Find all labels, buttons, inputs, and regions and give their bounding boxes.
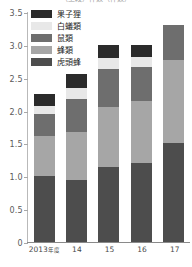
y-tick-label: 2.5 (9, 74, 23, 83)
bar-column[interactable] (98, 12, 119, 242)
bar-segment[interactable] (34, 176, 55, 242)
y-tick-mark (24, 243, 28, 244)
bar-segment[interactable] (34, 106, 55, 114)
bar-segment[interactable] (98, 69, 119, 107)
legend-swatch (31, 46, 52, 54)
bar-segment[interactable] (163, 60, 184, 143)
y-tick-label: 0.5 (9, 206, 23, 215)
legend-label: 虎頭蜂 (57, 58, 81, 67)
legend-swatch (31, 58, 52, 66)
bar-segment[interactable] (163, 143, 184, 242)
bar-segment[interactable] (163, 25, 184, 60)
bar-segment[interactable] (34, 114, 55, 136)
bar-segment[interactable] (98, 167, 119, 242)
x-tick-label: 14 (61, 245, 94, 254)
bar-segment[interactable] (66, 74, 87, 87)
y-tick-label: 0 (18, 239, 23, 248)
bar-segment[interactable] (66, 88, 87, 100)
bar-segment[interactable] (66, 132, 87, 180)
legend-item[interactable]: 虎頭蜂 (31, 57, 81, 67)
y-tick-label: 2.0 (9, 107, 23, 116)
y-tick-label: 1.5 (9, 140, 23, 149)
legend-item[interactable]: 白蟻類 (31, 21, 81, 31)
legend-label: 鼠類 (57, 34, 73, 43)
bar-segment[interactable] (66, 180, 87, 242)
legend-label: 果子狸 (57, 10, 81, 19)
bar-segment[interactable] (34, 136, 55, 177)
x-tick-label: 17 (158, 245, 191, 254)
legend-item[interactable]: 蜂類 (31, 45, 81, 55)
bar-segment[interactable] (98, 45, 119, 58)
bar-column[interactable] (163, 12, 184, 242)
legend-label: 蜂類 (57, 46, 73, 55)
x-tick-label: 16 (126, 245, 159, 254)
x-tick-label: 15 (93, 245, 126, 254)
bar-column[interactable] (131, 12, 152, 242)
y-tick-label: 3.5 (9, 9, 23, 18)
chart-legend: 果子狸白蟻類鼠類蜂類虎頭蜂 (31, 9, 81, 67)
bar-segment[interactable] (34, 94, 55, 106)
legend-swatch (31, 34, 52, 42)
bar-segment[interactable] (131, 163, 152, 242)
bar-segment[interactable] (131, 57, 152, 68)
bar-segment[interactable] (98, 107, 119, 167)
chart-title: （上段）件数（件数） (0, 0, 192, 3)
legend-swatch (31, 10, 52, 18)
legend-swatch (31, 22, 52, 30)
bar-segment[interactable] (98, 58, 119, 69)
y-tick-label: 3.0 (9, 41, 23, 50)
legend-item[interactable]: 鼠類 (31, 33, 81, 43)
x-axis-line (27, 242, 190, 243)
bar-segment[interactable] (66, 99, 87, 131)
bar-segment[interactable] (131, 101, 152, 163)
x-tick-label: 2013年度 (28, 245, 61, 254)
stacked-bar-chart: （上段）件数（件数） 00.51.01.52.02.53.03.5 2013年度… (0, 0, 192, 267)
legend-item[interactable]: 果子狸 (31, 9, 81, 19)
bar-segment[interactable] (131, 45, 152, 57)
bar-segment[interactable] (131, 67, 152, 101)
x-axis-labels: 2013年度14151617 (28, 245, 191, 254)
y-tick-label: 1.0 (9, 173, 23, 182)
legend-label: 白蟻類 (57, 22, 81, 31)
